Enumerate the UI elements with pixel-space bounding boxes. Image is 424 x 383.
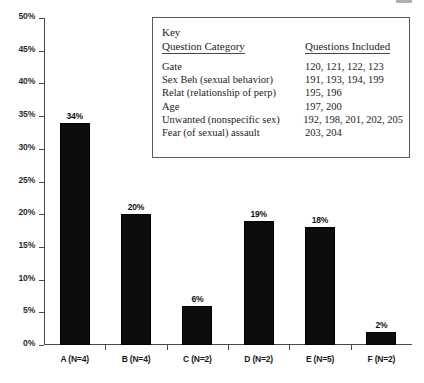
key-category-label: Sex Beh (sexual behavior) [162,73,305,86]
y-axis-tick-label: 30% [19,142,35,152]
key-category-label: Fear (of sexual) assault [162,126,305,139]
bar-value-label: 2% [375,320,387,330]
key-row: Sex Beh (sexual behavior)191, 193, 194, … [162,73,403,86]
x-axis-category-label: F (N=2) [368,354,396,364]
y-axis-tick: 45% [39,51,44,52]
key-header-questions: Questions Included [305,39,390,53]
x-axis-category-label: C (N=2) [183,354,212,364]
key-row: Fear (of sexual) assault203, 204 [162,126,403,139]
y-axis-tick-label: 20% [19,207,35,217]
page-corner-mark [396,0,412,3]
x-axis-category-label: A (N=4) [61,354,89,364]
key-row: Gate120, 121, 122, 123 [162,60,403,73]
x-axis-tick [167,345,168,350]
y-axis-tick-label: 10% [19,273,35,283]
y-axis-tick-label: 15% [19,240,35,250]
y-axis-line [44,18,45,345]
y-axis-tick-label: 45% [19,44,35,54]
key-legend-box: Key Question Category Questions Included… [152,17,410,158]
bar [244,221,274,345]
x-axis-tick [105,345,106,350]
y-axis-tick: 25% [39,182,44,183]
key-row: Relat (relationship of perp)195, 196 [162,86,403,99]
y-axis-tick: 5% [39,312,44,313]
bar-value-label: 20% [128,202,144,212]
key-questions-label: 191, 193, 194, 199 [305,73,384,86]
x-axis-category-label: E (N=5) [306,354,334,364]
x-axis-tick [351,345,352,350]
y-axis-tick: 0% [39,345,44,346]
key-category-label: Relat (relationship of perp) [162,86,305,99]
x-axis-category-label: D (N=2) [244,354,273,364]
x-axis-tick [289,345,290,350]
key-row: Unwanted (nonspecific sex)192, 198, 201,… [162,113,403,126]
key-row: Age197, 200 [162,100,403,113]
x-axis-category-label: B (N=4) [122,354,151,364]
key-questions-label: 203, 204 [305,126,342,139]
bar-value-label: 18% [312,215,328,225]
y-axis-tick: 10% [39,280,44,281]
key-header-row: Question Category Questions Included [162,39,403,53]
y-axis-tick: 15% [39,247,44,248]
y-axis-tick: 30% [39,149,44,150]
key-questions-label: 197, 200 [305,100,342,113]
key-category-label: Age [162,100,305,113]
key-header-category: Question Category [162,39,305,53]
bar-value-label: 34% [66,111,82,121]
key-category-label: Unwanted (nonspecific sex) [162,113,303,126]
y-axis-tick-label: 5% [23,305,35,315]
bar [121,214,151,345]
y-axis-tick-label: 0% [23,338,35,348]
key-rows: Gate120, 121, 122, 123Sex Beh (sexual be… [162,60,403,139]
y-axis-tick-label: 50% [19,11,35,21]
y-axis-tick: 20% [39,214,44,215]
y-axis-tick: 35% [39,116,44,117]
y-axis-tick-label: 25% [19,175,35,185]
bar [366,332,396,345]
key-questions-label: 192, 198, 201, 202, 205 [303,113,403,126]
y-axis-tick: 40% [39,83,44,84]
bar-value-label: 6% [191,294,203,304]
x-axis-tick [228,345,229,350]
key-category-label: Gate [162,60,305,73]
y-axis-tick-label: 35% [19,109,35,119]
bar-value-label: 19% [250,209,266,219]
bar [182,306,212,345]
chart-page: 0%5%10%15%20%25%30%35%40%45%50% 34%20%6%… [0,0,424,383]
key-title: Key [162,26,403,39]
key-questions-label: 195, 196 [305,86,342,99]
key-questions-label: 120, 121, 122, 123 [305,60,384,73]
bar [60,123,90,345]
bar [305,227,335,345]
y-axis-tick-label: 40% [19,76,35,86]
y-axis-tick: 50% [39,18,44,19]
